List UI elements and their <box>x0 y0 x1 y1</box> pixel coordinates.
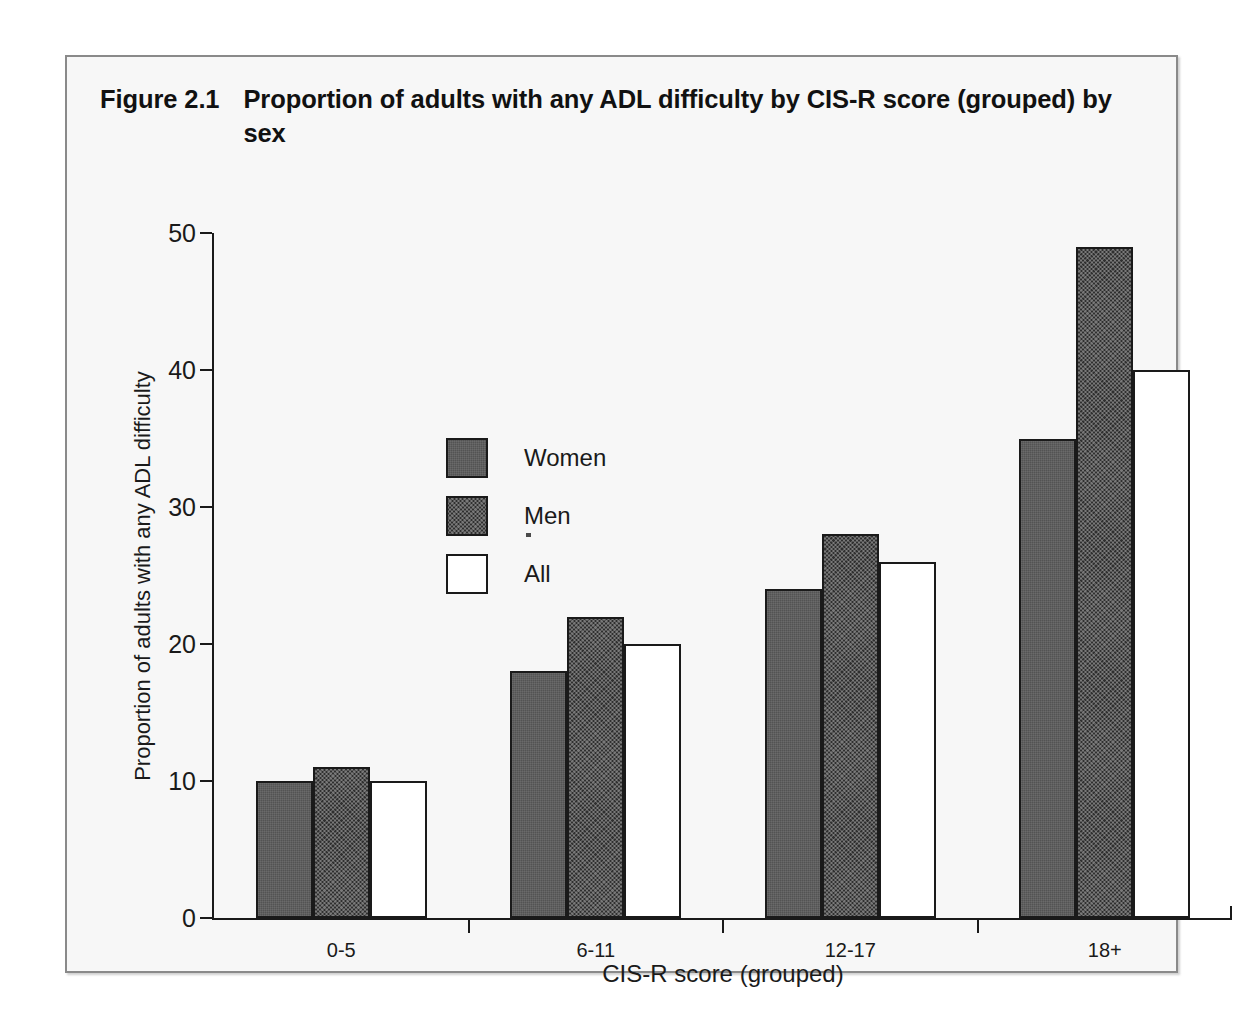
x-axis-endcap <box>1230 906 1232 920</box>
x-category-label: 12-17 <box>825 939 876 962</box>
y-tick-mark <box>200 369 212 371</box>
legend-label: Men <box>524 502 571 530</box>
y-tick-label: 30 <box>168 493 196 522</box>
y-axis-title: Proportion of adults with any ADL diffic… <box>128 233 158 918</box>
bar-all-12-17 <box>879 562 936 918</box>
x-category-label: 18+ <box>1088 939 1122 962</box>
x-tick-mark <box>468 918 470 933</box>
bar-men-18+ <box>1076 247 1133 918</box>
legend-label: Women <box>524 444 606 472</box>
figure-title-text: Proportion of adults with any ADL diffic… <box>243 83 1140 150</box>
legend-item-all: All <box>446 545 606 603</box>
legend-swatch-men <box>446 496 488 536</box>
bar-men-6-11 <box>567 617 624 918</box>
figure-title: Figure 2.1 Proportion of adults with any… <box>100 83 1140 150</box>
y-tick-label: 0 <box>182 904 196 933</box>
bar-all-18+ <box>1133 370 1190 918</box>
y-tick-mark <box>200 643 212 645</box>
x-category-label: 6-11 <box>576 939 615 962</box>
legend-item-women: Women <box>446 429 606 487</box>
x-category-label: 0-5 <box>327 939 356 962</box>
y-tick-label: 40 <box>168 356 196 385</box>
y-tick-label: 10 <box>168 767 196 796</box>
y-tick-mark <box>200 780 212 782</box>
legend: WomenMenAll <box>446 429 606 603</box>
y-tick-label: 50 <box>168 219 196 248</box>
scan-artifact-speck <box>526 533 531 537</box>
y-tick-mark <box>200 917 212 919</box>
bar-women-18+ <box>1019 439 1076 919</box>
bar-all-6-11 <box>624 644 681 918</box>
figure-frame: Figure 2.1 Proportion of adults with any… <box>65 55 1178 973</box>
y-tick-mark <box>200 506 212 508</box>
bar-men-0-5 <box>313 767 370 918</box>
legend-label: All <box>524 560 551 588</box>
bar-women-0-5 <box>256 781 313 918</box>
legend-swatch-women <box>446 438 488 478</box>
x-tick-mark <box>722 918 724 933</box>
y-tick-mark <box>200 232 212 234</box>
x-axis-title: CIS-R score (grouped) <box>214 960 1232 988</box>
y-axis-line <box>212 233 214 918</box>
y-tick-label: 20 <box>168 630 196 659</box>
bar-men-12-17 <box>822 534 879 918</box>
x-tick-mark <box>977 918 979 933</box>
bar-women-6-11 <box>510 671 567 918</box>
y-axis-title-label: Proportion of adults with any ADL diffic… <box>130 371 156 781</box>
legend-swatch-all <box>446 554 488 594</box>
bar-all-0-5 <box>370 781 427 918</box>
bar-women-12-17 <box>765 589 822 918</box>
plot-area: 01020304050 0-56-1112-1718+ WomenMenAll <box>214 233 1232 918</box>
figure-number: Figure 2.1 <box>100 83 219 117</box>
